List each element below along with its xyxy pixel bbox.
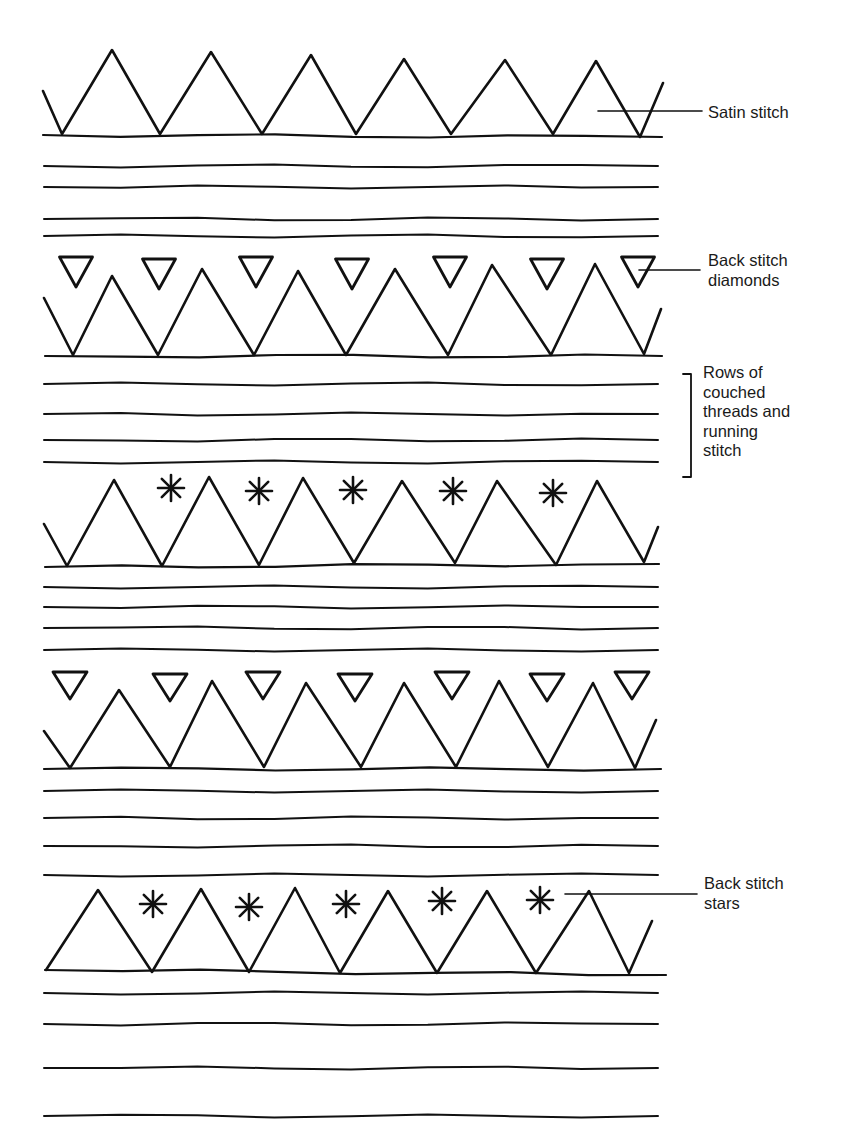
back-stitch-star-icon <box>340 477 366 503</box>
back-stitch-diamond-icon <box>240 257 273 287</box>
zigzag-baseline <box>45 564 659 567</box>
bracket-rows-of-couched-threads <box>683 374 691 477</box>
stitch-pattern-diagram <box>0 0 856 1133</box>
zigzag-baseline <box>44 767 661 770</box>
running-stitch-line <box>44 627 658 630</box>
running-stitch-line <box>44 991 658 994</box>
running-stitch-line <box>44 873 658 876</box>
back-stitch-star-icon <box>333 891 359 917</box>
running-stitch-line <box>44 218 658 221</box>
back-stitch-star-icon <box>527 887 553 913</box>
zigzag-baseline <box>45 355 662 358</box>
zigzag-baseline <box>45 970 666 975</box>
running-stitch-line <box>44 789 658 792</box>
running-stitch-line <box>44 165 658 168</box>
running-stitch-line <box>44 605 658 608</box>
running-stitch-line <box>44 1023 658 1026</box>
label-back-stitch-diamonds: Back stitch diamonds <box>708 251 788 290</box>
back-stitch-star-icon <box>540 480 566 506</box>
back-stitch-diamond-icon <box>338 674 372 701</box>
label-bracket <box>683 374 691 477</box>
back-stitch-diamond-icon <box>531 259 564 289</box>
back-stitch-diamond-icon <box>530 674 564 701</box>
satin-stitch-zigzag <box>44 264 661 355</box>
back-stitch-diamond-icon <box>153 674 187 701</box>
zigzag-baseline <box>43 134 662 137</box>
back-stitch-star-icon <box>236 894 262 920</box>
running-stitch-line <box>44 648 658 651</box>
running-stitch-line <box>44 185 658 188</box>
back-stitch-star-icon <box>158 475 184 501</box>
satin-stitch-zigzag <box>43 50 663 137</box>
back-stitch-diamond-icon <box>143 259 176 289</box>
back-stitch-diamond-icon <box>615 672 649 699</box>
running-stitch-line <box>44 439 658 442</box>
back-stitch-diamond-icon <box>60 257 93 287</box>
running-stitch-line <box>44 460 658 463</box>
label-rows-of-couched-threads: Rows of couched threads and running stit… <box>703 363 790 461</box>
running-stitch-line <box>44 1114 658 1117</box>
back-stitch-diamond-icon <box>246 672 280 699</box>
running-stitch-line <box>44 412 658 415</box>
running-stitch-line <box>44 234 658 237</box>
back-stitch-star-icon <box>429 888 455 914</box>
running-stitch-line <box>44 382 658 385</box>
back-stitch-diamond-icon <box>622 257 655 287</box>
running-stitch-line <box>44 1066 658 1069</box>
running-stitch-line <box>44 817 658 820</box>
back-stitch-star-icon <box>140 891 166 917</box>
back-stitch-star-icon <box>246 478 272 504</box>
label-back-stitch-stars: Back stitch stars <box>704 874 784 913</box>
back-stitch-diamond-icon <box>53 672 87 699</box>
back-stitch-diamond-icon <box>336 259 369 289</box>
back-stitch-diamond-icon <box>435 672 469 699</box>
label-satin-stitch: Satin stitch <box>708 103 789 123</box>
running-stitch-line <box>44 845 658 848</box>
back-stitch-star-icon <box>440 478 466 504</box>
running-stitch-line <box>44 585 658 588</box>
back-stitch-diamond-icon <box>434 257 467 287</box>
